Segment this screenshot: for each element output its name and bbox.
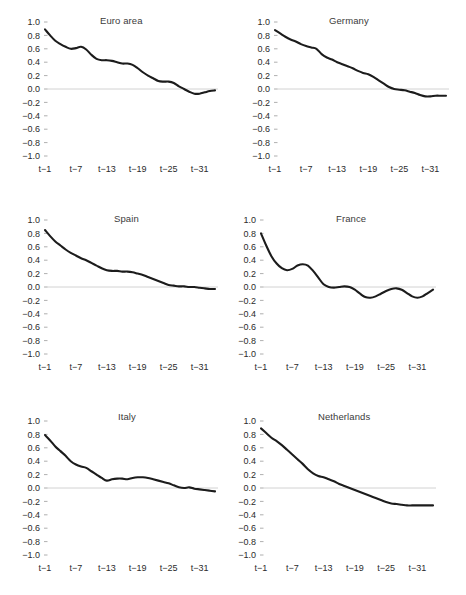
y-axis-tick-label: 1.0	[27, 17, 40, 27]
x-axis-tick-label: t−1	[39, 164, 52, 174]
plot-area-spain: 1.00.80.60.40.20.0−0.2−0.4−0.6−0.8−1.0t−…	[0, 198, 233, 396]
y-axis-tick-label: 0.8	[27, 31, 40, 41]
x-axis-tick-label: t−31	[408, 362, 426, 372]
y-axis-tick-label: −1.0	[22, 151, 40, 161]
y-axis-tick-label: 0.4	[27, 255, 40, 265]
x-axis-tick-label: t−19	[129, 563, 147, 573]
x-axis-tick-label: t−1	[255, 563, 268, 573]
y-axis-tick-label: 0.0	[27, 84, 40, 94]
y-axis-tick-label: 0.6	[27, 44, 40, 54]
panel-spain: Spain 1.00.80.60.40.20.0−0.2−0.4−0.6−0.8…	[0, 198, 233, 396]
y-axis-tick-label: 0.4	[243, 456, 256, 466]
panel-euro-area: Euro area 1.00.80.60.40.20.0−0.2−0.4−0.6…	[0, 0, 233, 198]
y-axis-tick-label: −0.8	[252, 138, 270, 148]
x-axis-tick-label: t−1	[255, 362, 268, 372]
x-axis-tick-label: t−7	[70, 563, 83, 573]
x-axis-tick-label: t−25	[377, 563, 395, 573]
y-axis-tick-label: −0.2	[22, 98, 40, 108]
y-axis-tick-label: 0.4	[257, 57, 270, 67]
y-axis-tick-label: −0.6	[238, 523, 256, 533]
y-axis-tick-label: 0.2	[243, 269, 256, 279]
x-axis-tick-label: t−19	[129, 164, 147, 174]
y-axis-tick-label: −0.6	[22, 322, 40, 332]
y-axis-tick-label: 1.0	[243, 416, 256, 426]
y-axis-tick-label: 0.8	[257, 31, 270, 41]
y-axis-tick-label: −0.6	[252, 124, 270, 134]
y-axis-tick-label: 0.6	[243, 242, 256, 252]
data-series-line	[45, 230, 215, 289]
x-axis-tick-label: t−7	[286, 362, 299, 372]
y-axis-tick-label: −0.2	[252, 98, 270, 108]
x-axis-tick-label: t−19	[359, 164, 377, 174]
y-axis-tick-label: −0.8	[238, 537, 256, 547]
y-axis-tick-label: 0.2	[243, 470, 256, 480]
y-axis-tick-label: −1.0	[238, 349, 256, 359]
y-axis-tick-label: −0.8	[22, 336, 40, 346]
x-axis-tick-label: t−1	[269, 164, 282, 174]
y-axis-tick-label: −0.2	[238, 497, 256, 507]
y-axis-tick-label: 0.4	[27, 456, 40, 466]
y-axis-tick-label: 0.0	[27, 483, 40, 493]
y-axis-tick-label: 0.2	[257, 71, 270, 81]
y-axis-tick-label: −1.0	[252, 151, 270, 161]
y-axis-tick-label: 0.8	[27, 229, 40, 239]
y-axis-tick-label: 0.6	[257, 44, 270, 54]
plot-area-france: 1.00.80.60.40.20.0−0.2−0.4−0.6−0.8−1.0t−…	[233, 198, 466, 396]
x-axis-tick-label: t−19	[346, 362, 364, 372]
y-axis-tick-label: 1.0	[257, 17, 270, 27]
x-axis-tick-label: t−13	[328, 164, 346, 174]
plot-area-germany: 1.00.80.60.40.20.0−0.2−0.4−0.6−0.8−1.0t−…	[233, 0, 466, 198]
plot-area-euro-area: 1.00.80.60.40.20.0−0.2−0.4−0.6−0.8−1.0t−…	[0, 0, 233, 198]
y-axis-tick-label: −0.8	[22, 537, 40, 547]
x-axis-tick-label: t−13	[315, 563, 333, 573]
y-axis-tick-label: −0.4	[22, 111, 40, 121]
x-axis-tick-label: t−19	[346, 563, 364, 573]
panel-italy: Italy 1.00.80.60.40.20.0−0.2−0.4−0.6−0.8…	[0, 396, 233, 594]
y-axis-tick-label: 0.8	[243, 229, 256, 239]
y-axis-tick-label: 0.4	[27, 57, 40, 67]
plot-area-netherlands: 1.00.80.60.40.20.0−0.2−0.4−0.6−0.8−1.0t−…	[233, 396, 466, 594]
x-axis-tick-label: t−31	[191, 164, 209, 174]
data-series-line	[45, 435, 215, 491]
y-axis-tick-label: 1.0	[27, 215, 40, 225]
multi-panel-line-chart-figure: Euro area 1.00.80.60.40.20.0−0.2−0.4−0.6…	[0, 0, 466, 595]
y-axis-tick-label: −0.2	[238, 296, 256, 306]
x-axis-tick-label: t−25	[160, 362, 178, 372]
y-axis-tick-label: 0.0	[257, 84, 270, 94]
y-axis-tick-label: −1.0	[238, 550, 256, 560]
y-axis-tick-label: −0.4	[238, 309, 256, 319]
y-axis-tick-label: 0.8	[27, 430, 40, 440]
x-axis-tick-label: t−13	[315, 362, 333, 372]
x-axis-tick-label: t−7	[286, 563, 299, 573]
panel-france: France 1.00.80.60.40.20.0−0.2−0.4−0.6−0.…	[233, 198, 466, 396]
x-axis-tick-label: t−7	[300, 164, 313, 174]
y-axis-tick-label: 0.2	[27, 470, 40, 480]
x-axis-tick-label: t−19	[129, 362, 147, 372]
y-axis-tick-label: 0.4	[243, 255, 256, 265]
y-axis-tick-label: −0.2	[22, 296, 40, 306]
x-axis-tick-label: t−1	[39, 563, 52, 573]
panel-netherlands: Netherlands 1.00.80.60.40.20.0−0.2−0.4−0…	[233, 396, 466, 594]
y-axis-tick-label: 0.6	[243, 443, 256, 453]
y-axis-tick-label: −0.6	[238, 322, 256, 332]
y-axis-tick-label: −0.6	[22, 523, 40, 533]
y-axis-tick-label: −1.0	[22, 349, 40, 359]
y-axis-tick-label: −1.0	[22, 550, 40, 560]
x-axis-tick-label: t−25	[377, 362, 395, 372]
data-series-line	[45, 29, 215, 94]
y-axis-tick-label: 1.0	[27, 416, 40, 426]
x-axis-tick-label: t−7	[70, 164, 83, 174]
panel-germany: Germany 1.00.80.60.40.20.0−0.2−0.4−0.6−0…	[233, 0, 466, 198]
x-axis-tick-label: t−31	[191, 563, 209, 573]
x-axis-tick-label: t−13	[98, 164, 116, 174]
y-axis-tick-label: 0.6	[27, 443, 40, 453]
plot-area-italy: 1.00.80.60.40.20.0−0.2−0.4−0.6−0.8−1.0t−…	[0, 396, 233, 594]
x-axis-tick-label: t−13	[98, 362, 116, 372]
data-series-line	[275, 30, 446, 96]
x-axis-tick-label: t−31	[422, 164, 440, 174]
y-axis-tick-label: 1.0	[243, 215, 256, 225]
y-axis-tick-label: 0.8	[243, 430, 256, 440]
y-axis-tick-label: −0.8	[238, 336, 256, 346]
y-axis-tick-label: 0.0	[243, 282, 256, 292]
x-axis-tick-label: t−25	[390, 164, 408, 174]
